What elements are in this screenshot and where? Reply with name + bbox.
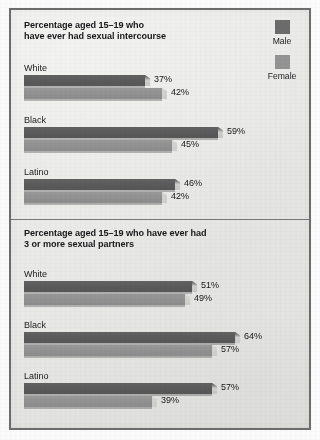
category-label-latino-partners: Latino <box>24 371 49 381</box>
bar-latino-male-partners <box>24 383 212 394</box>
bar-white-female <box>24 88 162 99</box>
category-label-white-partners: White <box>24 269 47 279</box>
category-label-black: Black <box>24 115 46 125</box>
bar-black-male-partners <box>24 332 235 343</box>
bar-value-latino-male: 46% <box>184 178 202 188</box>
bar-value-black-male-partners: 64% <box>244 331 262 341</box>
bar-value-white-female-partners: 49% <box>194 293 212 303</box>
legend-label-male: Male <box>258 36 306 46</box>
bar-white-male <box>24 75 145 86</box>
category-label-white: White <box>24 63 47 73</box>
bar-white-male-partners <box>24 281 192 292</box>
bar-latino-male <box>24 179 175 190</box>
bar-value-latino-female: 42% <box>171 191 189 201</box>
chart-title-partners: Percentage aged 15–19 who have ever had … <box>24 228 274 251</box>
square-swatch-icon-female <box>275 55 290 69</box>
bar-black-female <box>24 140 172 151</box>
scanned-page-background: Percentage aged 15–19 who have ever had … <box>0 0 320 440</box>
bar-value-black-female-partners: 57% <box>221 344 239 354</box>
category-label-latino: Latino <box>24 167 49 177</box>
bar-black-male <box>24 127 218 138</box>
bar-value-white-female: 42% <box>171 87 189 97</box>
bar-latino-female-partners <box>24 396 152 407</box>
bar-white-female-partners <box>24 294 185 305</box>
section-divider <box>11 219 309 220</box>
bar-latino-female <box>24 192 162 203</box>
bar-value-black-female: 45% <box>181 139 199 149</box>
bar-value-latino-female-partners: 39% <box>161 395 179 405</box>
legend-entry-male: Male <box>258 20 306 46</box>
bar-value-black-male: 59% <box>227 126 245 136</box>
legend-entry-female: Female <box>258 55 306 81</box>
bar-black-female-partners <box>24 345 212 356</box>
square-swatch-icon-male <box>275 20 290 34</box>
legend-label-female: Female <box>258 71 306 81</box>
category-label-black-partners: Black <box>24 320 46 330</box>
figure-frame: Percentage aged 15–19 who have ever had … <box>9 8 311 430</box>
bar-value-white-male: 37% <box>154 74 172 84</box>
legend: Male Female <box>258 20 306 90</box>
chart-title-intercourse: Percentage aged 15–19 who have ever had … <box>24 20 229 43</box>
bar-value-latino-male-partners: 57% <box>221 382 239 392</box>
bar-value-white-male-partners: 51% <box>201 280 219 290</box>
